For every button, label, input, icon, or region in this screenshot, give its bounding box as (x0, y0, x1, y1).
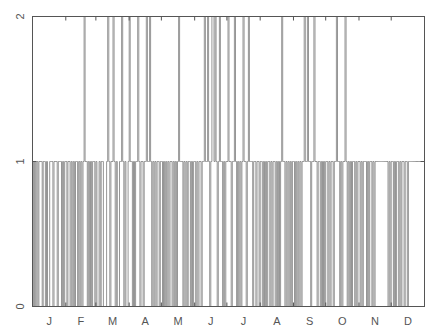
x-tick-label-month: O (338, 315, 347, 327)
x-tick-label-month: A (273, 315, 281, 327)
x-tick-label-month: J (46, 315, 52, 327)
x-tick-label-month: D (404, 315, 412, 327)
data-line (33, 17, 425, 307)
x-tick-label-month: M (108, 315, 117, 327)
x-tick-label-month: A (142, 315, 150, 327)
y-tick-label: 0 (14, 303, 26, 309)
y-tick-label: 1 (14, 158, 26, 164)
x-tick-label-month: J (208, 315, 214, 327)
y-tick-label: 2 (14, 13, 26, 19)
x-tick-label-month: S (306, 315, 313, 327)
x-tick-label-month: F (77, 315, 84, 327)
step-line-chart: JFMAMJJASOND 012 (0, 0, 440, 336)
x-tick-label-month: N (371, 315, 379, 327)
x-tick-label-month: J (241, 315, 247, 327)
series-line (33, 17, 425, 307)
x-tick-label-month: M (173, 315, 182, 327)
